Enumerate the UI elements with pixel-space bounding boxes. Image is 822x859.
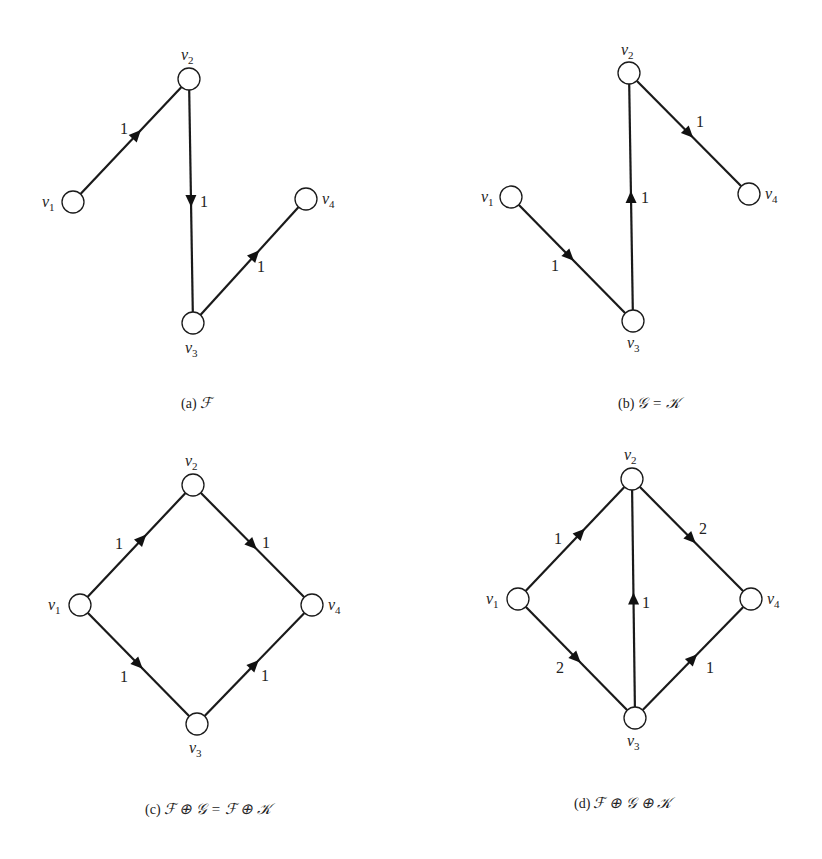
edge-v2-v4: 1 (201, 493, 305, 597)
edge-weight-label: 1 (706, 659, 714, 676)
node-v1: v1 (481, 186, 522, 208)
node-v4: v4 (301, 594, 341, 616)
edge-weight-label: 2 (556, 659, 564, 676)
edge-v3-v4: 1 (643, 607, 744, 710)
node-label: v1 (481, 188, 494, 208)
node-circle (295, 188, 317, 210)
node-circle (62, 191, 84, 213)
node-label: v4 (322, 190, 335, 210)
node-label: v4 (767, 590, 780, 610)
node-circle (740, 588, 762, 610)
panel-caption: (c)ℱ ⊕ 𝒢 = ℱ ⊕ 𝒦 (145, 801, 276, 818)
edge-v3-v4: 1 (205, 613, 305, 716)
arrowhead-icon (185, 195, 196, 207)
edge-v1-v2: 1 (526, 487, 625, 591)
panel-a-graph-f: 111v1v2v3v4(a)ℱ (42, 46, 335, 412)
edge-v1-v3: 1 (519, 205, 626, 313)
node-circle (738, 183, 760, 205)
edge-weight-label: 1 (262, 534, 270, 551)
node-circle (507, 588, 529, 610)
edge-v1-v3: 2 (526, 607, 628, 710)
node-label: v1 (42, 193, 55, 213)
node-circle (621, 468, 643, 490)
node-circle (618, 62, 640, 84)
edge-weight-label: 1 (257, 258, 265, 275)
node-circle (301, 594, 323, 616)
node-circle (624, 707, 646, 729)
edge-v2-v3: 1 (185, 90, 208, 312)
node-v2: v2 (182, 452, 204, 496)
node-label: v1 (48, 596, 61, 616)
node-v3: v3 (624, 707, 646, 752)
edge-v1-v2: 1 (88, 493, 186, 597)
panel-b-graph-g-equals-k: 111v1v2v3v4(b)𝒢 = 𝒦 (481, 41, 778, 412)
edge-weight-label: 1 (696, 113, 704, 130)
edge-weight-label: 1 (554, 530, 562, 547)
edge-weight-label: 1 (642, 594, 650, 611)
edge-weight-label: 1 (120, 668, 128, 685)
node-v4: v4 (738, 183, 778, 205)
arrowhead-icon (626, 191, 637, 203)
node-circle (500, 186, 522, 208)
node-label: v2 (185, 452, 198, 472)
edge-weight-label: 2 (699, 520, 707, 537)
edge-weight-label: 1 (115, 535, 123, 552)
node-circle (186, 713, 208, 735)
node-v4: v4 (740, 588, 780, 610)
network-flow-figure: 111v1v2v3v4(a)ℱ 111v1v2v3v4(b)𝒢 = 𝒦 1111… (0, 0, 822, 859)
node-circle (178, 68, 200, 90)
edge-weight-label: 1 (641, 189, 649, 206)
node-circle (182, 474, 204, 496)
edge-v2-v4: 2 (640, 487, 744, 591)
node-v3: v3 (186, 713, 208, 759)
edge-weight-label: 1 (120, 120, 128, 137)
edge-v3-v2: 1 (626, 84, 649, 310)
node-label: v2 (621, 41, 634, 61)
panel-d-graph-f-plus-g-plus-k: 12121v1v2v3v4(d)ℱ ⊕ 𝒢 ⊕ 𝒦 (486, 446, 780, 812)
node-label: v1 (486, 590, 499, 610)
node-circle (182, 312, 204, 334)
node-v2: v2 (621, 446, 643, 490)
node-v1: v1 (48, 594, 91, 616)
panel-caption: (a)ℱ (181, 395, 215, 412)
node-label: v3 (185, 339, 198, 359)
arrowhead-icon (628, 593, 639, 605)
edge-v2-v4: 1 (637, 81, 742, 186)
node-circle (622, 310, 644, 332)
node-label: v2 (181, 46, 194, 66)
node-v2: v2 (618, 41, 640, 84)
node-circle (69, 594, 91, 616)
edge-v3-v2: 1 (628, 490, 650, 707)
edge-weight-label: 1 (261, 667, 269, 684)
node-label: v3 (189, 739, 202, 759)
edge-weight-label: 1 (200, 193, 208, 210)
node-label: v4 (765, 185, 778, 205)
node-label: v3 (627, 732, 640, 752)
node-label: v2 (624, 446, 637, 466)
panel-c-graph-f-plus-g: 1111v1v2v3v4(c)ℱ ⊕ 𝒢 = ℱ ⊕ 𝒦 (48, 452, 341, 818)
node-label: v4 (328, 596, 341, 616)
node-v4: v4 (295, 188, 335, 210)
edge-v3-v4: 1 (200, 207, 298, 315)
node-v1: v1 (42, 191, 84, 213)
node-label: v3 (627, 334, 640, 354)
edge-v1-v2: 1 (81, 87, 182, 194)
panel-caption: (b)𝒢 = 𝒦 (618, 395, 685, 412)
panel-caption: (d)ℱ ⊕ 𝒢 ⊕ 𝒦 (574, 795, 676, 812)
edge-v1-v3: 1 (88, 613, 190, 716)
node-v3: v3 (182, 312, 204, 359)
edge-weight-label: 1 (551, 257, 559, 274)
node-v3: v3 (622, 310, 644, 354)
node-v1: v1 (486, 588, 529, 610)
node-v2: v2 (178, 46, 200, 90)
